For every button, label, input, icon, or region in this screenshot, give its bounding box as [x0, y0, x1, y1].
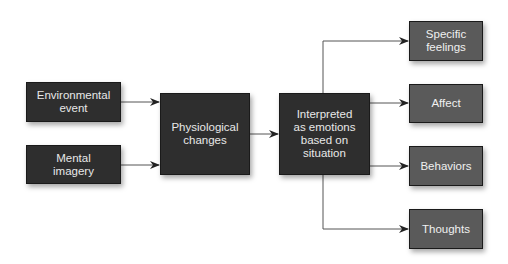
node-interpreted-as-emotions: Interpreted as emotions based on situati… — [279, 93, 370, 175]
node-affect: Affect — [409, 84, 483, 123]
node-mental-imagery: Mental imagery — [26, 145, 121, 184]
node-label: Specific feelings — [426, 28, 466, 54]
node-physiological-changes: Physiological changes — [160, 93, 250, 175]
node-label: Behaviors — [420, 160, 471, 173]
node-label: Mental imagery — [53, 152, 94, 178]
node-label: Interpreted as emotions based on situati… — [293, 108, 355, 160]
node-specific-feelings: Specific feelings — [409, 21, 483, 61]
arrow-interpreted-to-specific-feelings — [323, 41, 408, 93]
node-label: Physiological changes — [171, 121, 238, 147]
node-environmental-event: Environmental event — [26, 82, 121, 122]
arrow-interpreted-to-thoughts — [323, 175, 408, 229]
node-behaviors: Behaviors — [409, 146, 483, 186]
node-label: Affect — [431, 97, 460, 110]
node-thoughts: Thoughts — [409, 209, 483, 249]
node-label: Thoughts — [422, 223, 470, 236]
node-label: Environmental event — [37, 89, 111, 115]
